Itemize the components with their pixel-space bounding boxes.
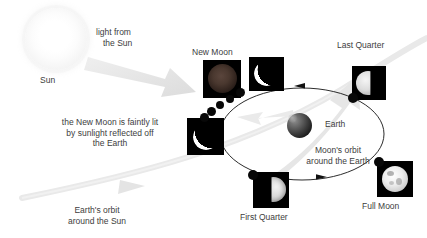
sun-label: Sun xyxy=(40,75,55,86)
moon-full-icon xyxy=(382,166,408,192)
earth-globe-icon xyxy=(287,113,312,138)
moon-mare xyxy=(396,178,402,185)
moon-half-icon xyxy=(261,177,286,202)
moon-dot xyxy=(226,95,234,103)
moon-phases-diagram: Sun light from the Sun the New Moon is f… xyxy=(0,0,427,238)
sunlight-arrow-main-icon xyxy=(84,57,196,97)
waxing-crescent-upper-panel xyxy=(249,57,284,91)
sun-icon xyxy=(25,8,87,70)
moon-dot xyxy=(216,101,224,109)
moon-dot-first-quarter xyxy=(248,170,258,180)
moon-dot-full-moon xyxy=(374,157,384,167)
moon-mare xyxy=(389,181,394,185)
new-moon-label: New Moon xyxy=(192,47,233,58)
moon-disc-icon xyxy=(208,64,237,93)
full-moon-panel xyxy=(377,161,413,197)
full-moon-label: Full Moon xyxy=(362,201,399,212)
moon-dot xyxy=(236,88,245,97)
moon-crescent-icon xyxy=(193,124,219,150)
moon-half-icon xyxy=(356,71,380,95)
waxing-crescent-left-panel xyxy=(187,118,224,155)
first-quarter-panel xyxy=(253,172,289,208)
light-from-sun-label: light from the Sun xyxy=(96,27,172,48)
moon-mare xyxy=(387,171,394,176)
moon-crescent-icon xyxy=(254,61,279,86)
moon-dot-last-quarter xyxy=(348,93,358,103)
last-quarter-label: Last Quarter xyxy=(337,40,384,51)
earth-label: Earth xyxy=(325,119,345,130)
moon-dot xyxy=(200,113,209,122)
first-quarter-label: First Quarter xyxy=(240,212,288,223)
earth-orbit-arrowhead-icon xyxy=(118,180,145,194)
moons-orbit-caption: Moon's orbit around the Earth xyxy=(288,145,388,166)
earths-orbit-caption: Earth's orbit around the Sun xyxy=(42,205,152,226)
earthshine-caption: the New Moon is faintly lit by sunlight … xyxy=(40,117,180,149)
